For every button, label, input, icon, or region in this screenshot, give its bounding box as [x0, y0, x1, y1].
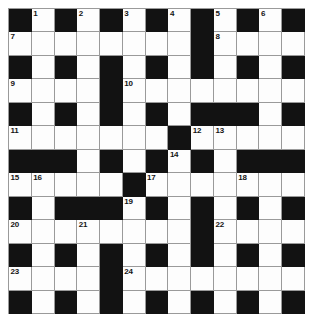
letter-cell[interactable] — [146, 79, 169, 102]
letter-cell[interactable]: 10 — [123, 79, 146, 102]
letter-cell[interactable]: 20 — [9, 220, 32, 243]
letter-cell[interactable] — [237, 32, 260, 55]
letter-cell[interactable]: 21 — [77, 220, 100, 243]
letter-cell[interactable] — [55, 220, 78, 243]
letter-cell[interactable]: 9 — [9, 79, 32, 102]
letter-cell[interactable] — [146, 32, 169, 55]
letter-cell[interactable]: 18 — [237, 173, 260, 196]
letter-cell[interactable] — [214, 56, 237, 79]
letter-cell[interactable] — [259, 291, 282, 314]
letter-cell[interactable] — [282, 173, 305, 196]
crossword-grid[interactable]: 123456789101112131415161718192021222324 — [8, 8, 305, 314]
letter-cell[interactable] — [282, 79, 305, 102]
letter-cell[interactable]: 11 — [9, 126, 32, 149]
letter-cell[interactable] — [237, 126, 260, 149]
letter-cell[interactable] — [168, 197, 191, 220]
letter-cell[interactable] — [282, 126, 305, 149]
letter-cell[interactable]: 14 — [168, 150, 191, 173]
letter-cell[interactable] — [32, 32, 55, 55]
letter-cell[interactable] — [168, 79, 191, 102]
letter-cell[interactable] — [259, 267, 282, 290]
letter-cell[interactable]: 4 — [168, 9, 191, 32]
letter-cell[interactable] — [32, 126, 55, 149]
letter-cell[interactable]: 23 — [9, 267, 32, 290]
letter-cell[interactable] — [146, 220, 169, 243]
letter-cell[interactable] — [77, 291, 100, 314]
letter-cell[interactable] — [123, 244, 146, 267]
letter-cell[interactable] — [100, 173, 123, 196]
letter-cell[interactable] — [123, 126, 146, 149]
letter-cell[interactable] — [77, 173, 100, 196]
letter-cell[interactable] — [259, 32, 282, 55]
letter-cell[interactable] — [191, 173, 214, 196]
letter-cell[interactable] — [214, 267, 237, 290]
letter-cell[interactable] — [168, 56, 191, 79]
letter-cell[interactable] — [214, 79, 237, 102]
letter-cell[interactable] — [55, 79, 78, 102]
letter-cell[interactable] — [123, 291, 146, 314]
letter-cell[interactable] — [237, 79, 260, 102]
letter-cell[interactable] — [168, 32, 191, 55]
letter-cell[interactable]: 8 — [214, 32, 237, 55]
letter-cell[interactable] — [32, 244, 55, 267]
letter-cell[interactable] — [214, 197, 237, 220]
letter-cell[interactable] — [55, 267, 78, 290]
letter-cell[interactable] — [259, 79, 282, 102]
letter-cell[interactable] — [77, 150, 100, 173]
letter-cell[interactable] — [77, 32, 100, 55]
letter-cell[interactable] — [259, 103, 282, 126]
letter-cell[interactable] — [214, 244, 237, 267]
letter-cell[interactable] — [282, 32, 305, 55]
letter-cell[interactable] — [168, 103, 191, 126]
letter-cell[interactable] — [146, 267, 169, 290]
letter-cell[interactable] — [146, 126, 169, 149]
letter-cell[interactable] — [32, 79, 55, 102]
letter-cell[interactable] — [237, 220, 260, 243]
letter-cell[interactable]: 5 — [214, 9, 237, 32]
letter-cell[interactable] — [168, 220, 191, 243]
letter-cell[interactable] — [32, 197, 55, 220]
letter-cell[interactable] — [123, 103, 146, 126]
letter-cell[interactable] — [214, 150, 237, 173]
letter-cell[interactable] — [259, 244, 282, 267]
letter-cell[interactable]: 6 — [259, 9, 282, 32]
letter-cell[interactable] — [55, 32, 78, 55]
letter-cell[interactable] — [77, 126, 100, 149]
letter-cell[interactable] — [123, 32, 146, 55]
letter-cell[interactable] — [77, 267, 100, 290]
letter-cell[interactable]: 1 — [32, 9, 55, 32]
letter-cell[interactable]: 22 — [214, 220, 237, 243]
letter-cell[interactable] — [259, 126, 282, 149]
letter-cell[interactable] — [77, 79, 100, 102]
letter-cell[interactable] — [77, 244, 100, 267]
letter-cell[interactable] — [168, 291, 191, 314]
letter-cell[interactable]: 13 — [214, 126, 237, 149]
letter-cell[interactable] — [191, 79, 214, 102]
letter-cell[interactable]: 7 — [9, 32, 32, 55]
letter-cell[interactable] — [32, 291, 55, 314]
letter-cell[interactable] — [123, 220, 146, 243]
letter-cell[interactable]: 24 — [123, 267, 146, 290]
letter-cell[interactable] — [282, 220, 305, 243]
letter-cell[interactable]: 15 — [9, 173, 32, 196]
letter-cell[interactable] — [100, 32, 123, 55]
letter-cell[interactable] — [123, 56, 146, 79]
letter-cell[interactable] — [55, 126, 78, 149]
letter-cell[interactable] — [214, 291, 237, 314]
letter-cell[interactable] — [100, 220, 123, 243]
letter-cell[interactable] — [77, 103, 100, 126]
letter-cell[interactable]: 19 — [123, 197, 146, 220]
letter-cell[interactable] — [32, 56, 55, 79]
letter-cell[interactable] — [100, 126, 123, 149]
letter-cell[interactable] — [191, 267, 214, 290]
letter-cell[interactable]: 17 — [146, 173, 169, 196]
letter-cell[interactable] — [168, 244, 191, 267]
letter-cell[interactable] — [259, 220, 282, 243]
letter-cell[interactable] — [168, 267, 191, 290]
letter-cell[interactable] — [259, 56, 282, 79]
letter-cell[interactable]: 2 — [77, 9, 100, 32]
letter-cell[interactable] — [123, 150, 146, 173]
letter-cell[interactable]: 12 — [191, 126, 214, 149]
letter-cell[interactable] — [32, 267, 55, 290]
letter-cell[interactable] — [32, 103, 55, 126]
